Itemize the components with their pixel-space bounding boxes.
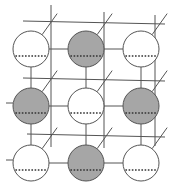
empty-circle [13, 31, 49, 67]
lattice-node-r0-c0 [13, 31, 49, 67]
lattice-node-r2-c2 [123, 145, 159, 181]
lattice-nodes [13, 31, 159, 181]
lattice-node-r1-c1 [68, 88, 104, 124]
lattice-node-r1-c0 [13, 88, 49, 124]
lattice-node-r2-c1 [68, 145, 104, 181]
diagonal-connector [42, 128, 57, 149]
back-grid-lines [23, 5, 165, 148]
diagonal-connector [152, 128, 167, 149]
lattice-node-r0-c2 [123, 31, 159, 67]
grid-horizontal-line-2 [27, 134, 165, 137]
grid-horizontal-line-0 [23, 21, 165, 24]
lattice-diagram [0, 0, 173, 194]
empty-circle [123, 145, 159, 181]
grid-horizontal-line-1 [23, 78, 165, 81]
diagonal-connector [42, 14, 57, 35]
diagonal-connector [42, 71, 57, 92]
lattice-node-r0-c1 [68, 31, 104, 67]
diagonal-connector [97, 71, 112, 92]
empty-circle [123, 31, 159, 67]
shaded-circle [68, 145, 104, 181]
lattice-node-r1-c2 [123, 88, 159, 124]
diagonal-connector [97, 14, 112, 35]
empty-circle [68, 88, 104, 124]
shaded-circle [68, 31, 104, 67]
lattice-node-r2-c0 [13, 145, 49, 181]
shaded-circle [123, 88, 159, 124]
diagonal-connector [97, 128, 112, 149]
empty-circle [13, 145, 49, 181]
shaded-circle [13, 88, 49, 124]
